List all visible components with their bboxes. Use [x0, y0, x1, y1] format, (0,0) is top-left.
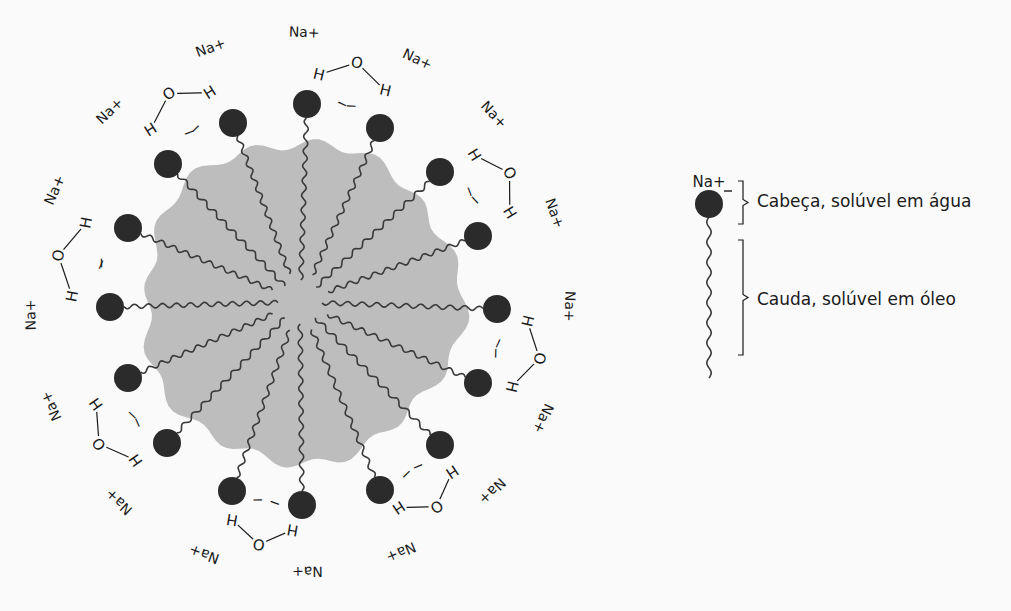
sodium-ion-label: Na+	[292, 564, 323, 580]
oxygen-label: O	[252, 535, 267, 555]
legend-head-label: Cabeça, solúvel em água	[757, 191, 971, 211]
polar-head	[293, 90, 321, 118]
sodium-ion-label: Na+	[384, 539, 419, 566]
oxygen-label: O	[427, 496, 447, 518]
micelle-diagram: HHONa+Na+HHONa+Na+HHONa+Na+HHONa+Na+HHON…	[0, 0, 1011, 611]
sodium-ion-label: Na+	[476, 475, 509, 508]
oxygen-label: O	[349, 53, 365, 73]
oxygen-label: O	[159, 83, 179, 105]
sodium-ion-label: Na+	[478, 98, 511, 131]
polar-head	[426, 158, 454, 186]
head-bracket-icon	[738, 181, 748, 224]
polar-head	[426, 431, 454, 459]
polar-head	[153, 429, 181, 457]
legend-tail-label: Cauda, solúvel em óleo	[757, 289, 956, 309]
sodium-ion-label: Na+	[193, 34, 227, 60]
hydrogen-label: H	[62, 289, 82, 303]
sodium-ion-label: Na+	[289, 23, 320, 40]
legend-head	[695, 190, 723, 218]
hydrogen-label: H	[311, 65, 326, 85]
sodium-ion-label: Na+	[22, 299, 39, 330]
legend-tail	[707, 217, 711, 378]
sodium-ion-label: Na+	[93, 94, 126, 127]
legend-sodium-label: Na+	[693, 173, 726, 191]
hydrogen-label: H	[285, 520, 299, 540]
oxygen-label: O	[529, 351, 549, 367]
polar-head	[483, 295, 511, 323]
sodium-ion-label: Na+	[102, 486, 135, 519]
oxygen-label: O	[499, 163, 521, 182]
sodium-ion-label: Na+	[41, 173, 68, 208]
hydrogen-label: H	[125, 450, 146, 470]
sodium-ion-label: Na+	[542, 196, 568, 230]
negative-charge-mark: −	[252, 492, 264, 508]
hydrogen-label: H	[502, 379, 522, 394]
polar-head	[154, 150, 182, 178]
sodium-ion-label: Na+	[187, 542, 221, 567]
polar-head	[366, 114, 394, 142]
polar-head	[464, 222, 492, 250]
tail-bracket-icon	[738, 240, 748, 355]
hydrogen-label: H	[85, 394, 106, 414]
sodium-ion-label: Na+	[561, 291, 578, 322]
hydrogen-label: H	[442, 461, 461, 482]
hydrogen-label: H	[378, 80, 393, 100]
legend-molecule: Na+	[693, 173, 748, 378]
sodium-ion-label: Na+	[37, 389, 64, 424]
polar-head	[366, 476, 394, 504]
negative-charge-mark: −	[266, 494, 282, 513]
polar-head	[114, 214, 142, 242]
polar-head	[218, 477, 246, 505]
polar-head	[96, 293, 124, 321]
polar-head	[464, 369, 492, 397]
hydrogen-label: H	[517, 313, 537, 328]
hydrogen-label: H	[225, 510, 239, 530]
polar-head	[288, 491, 316, 519]
oxygen-label: O	[48, 248, 68, 263]
hydrogen-label: H	[389, 497, 408, 518]
oxygen-label: O	[88, 434, 110, 454]
hydrogen-label: H	[76, 216, 96, 230]
sodium-ion-label: Na+	[530, 401, 557, 436]
sodium-ion-label: Na+	[400, 45, 435, 72]
polar-head	[219, 109, 247, 137]
polar-head	[114, 364, 142, 392]
